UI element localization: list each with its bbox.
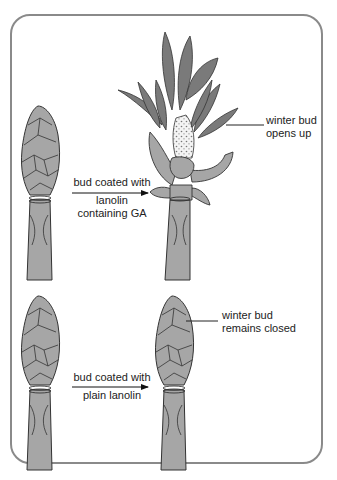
result-label-closed-line1: winter bud [222,309,296,322]
treatment-label-ga: bud coated with lanolin containing GA [64,176,160,220]
result-label-opened-line1: winter bud [266,114,317,127]
result-label-opened-line2: opens up [266,127,317,140]
result-label-closed-line2: remains closed [222,322,296,335]
result-label-closed: winter bud remains closed [222,309,296,335]
treatment-label-plain: bud coated with plain lanolin [64,371,160,402]
treatment-label-ga-line3: containing GA [64,207,160,220]
closed-bud-before-plain [21,296,59,470]
closed-bud-after-plain [155,296,193,470]
treatment-label-ga-line1: bud coated with [64,176,160,189]
result-label-opened: winter bud opens up [266,114,317,140]
opened-bud-after-ga [118,32,238,280]
treatment-label-plain-line1: bud coated with [64,371,160,384]
treatment-label-ga-line2: lanolin [64,194,160,207]
diagram-artwork [0,0,337,480]
treatment-label-plain-line2: plain lanolin [64,389,160,402]
closed-bud-before-ga [21,106,59,280]
